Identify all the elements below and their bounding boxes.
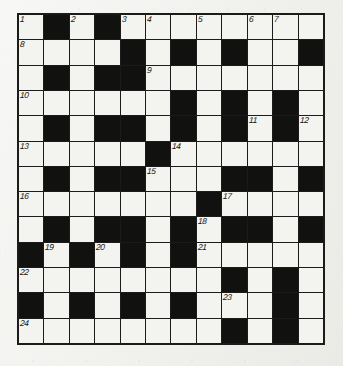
- crossword-letter-cell[interactable]: [248, 319, 272, 343]
- crossword-letter-cell[interactable]: [44, 192, 68, 216]
- crossword-letter-cell[interactable]: [19, 66, 43, 90]
- crossword-letter-cell[interactable]: [70, 167, 94, 191]
- crossword-letter-cell[interactable]: [146, 40, 170, 64]
- crossword-letter-cell[interactable]: 17: [222, 192, 246, 216]
- crossword-letter-cell[interactable]: [171, 66, 195, 90]
- crossword-letter-cell[interactable]: 15: [146, 167, 170, 191]
- crossword-letter-cell[interactable]: [171, 15, 195, 39]
- crossword-letter-cell[interactable]: [222, 243, 246, 267]
- crossword-letter-cell[interactable]: [273, 142, 297, 166]
- crossword-letter-cell[interactable]: [273, 40, 297, 64]
- crossword-letter-cell[interactable]: 10: [19, 91, 43, 115]
- crossword-letter-cell[interactable]: [146, 268, 170, 292]
- crossword-letter-cell[interactable]: 3: [121, 15, 145, 39]
- crossword-letter-cell[interactable]: [299, 243, 323, 267]
- crossword-letter-cell[interactable]: [44, 319, 68, 343]
- crossword-letter-cell[interactable]: [146, 243, 170, 267]
- crossword-letter-cell[interactable]: [197, 293, 221, 317]
- crossword-letter-cell[interactable]: 6: [248, 15, 272, 39]
- crossword-letter-cell[interactable]: [121, 319, 145, 343]
- crossword-letter-cell[interactable]: [70, 319, 94, 343]
- crossword-letter-cell[interactable]: [121, 142, 145, 166]
- crossword-letter-cell[interactable]: [19, 167, 43, 191]
- crossword-letter-cell[interactable]: 24: [19, 319, 43, 343]
- crossword-letter-cell[interactable]: [248, 66, 272, 90]
- crossword-letter-cell[interactable]: 9: [146, 66, 170, 90]
- crossword-letter-cell[interactable]: [197, 66, 221, 90]
- crossword-grid[interactable]: 123456789101112131415161718192021222324: [17, 13, 325, 345]
- crossword-letter-cell[interactable]: 8: [19, 40, 43, 64]
- crossword-letter-cell[interactable]: [70, 116, 94, 140]
- crossword-letter-cell[interactable]: [146, 91, 170, 115]
- crossword-letter-cell[interactable]: [171, 319, 195, 343]
- crossword-letter-cell[interactable]: [273, 217, 297, 241]
- crossword-letter-cell[interactable]: [299, 268, 323, 292]
- crossword-letter-cell[interactable]: [19, 217, 43, 241]
- crossword-letter-cell[interactable]: 2: [70, 15, 94, 39]
- crossword-letter-cell[interactable]: 11: [248, 116, 272, 140]
- crossword-letter-cell[interactable]: 20: [95, 243, 119, 267]
- crossword-letter-cell[interactable]: [197, 40, 221, 64]
- crossword-letter-cell[interactable]: 21: [197, 243, 221, 267]
- crossword-letter-cell[interactable]: 19: [44, 243, 68, 267]
- crossword-letter-cell[interactable]: [121, 91, 145, 115]
- crossword-letter-cell[interactable]: 23: [222, 293, 246, 317]
- crossword-letter-cell[interactable]: [222, 142, 246, 166]
- crossword-letter-cell[interactable]: [299, 293, 323, 317]
- crossword-letter-cell[interactable]: [95, 142, 119, 166]
- crossword-letter-cell[interactable]: [299, 192, 323, 216]
- crossword-letter-cell[interactable]: [70, 142, 94, 166]
- crossword-letter-cell[interactable]: [146, 192, 170, 216]
- crossword-letter-cell[interactable]: [44, 91, 68, 115]
- crossword-letter-cell[interactable]: 13: [19, 142, 43, 166]
- crossword-letter-cell[interactable]: [299, 142, 323, 166]
- crossword-letter-cell[interactable]: [248, 91, 272, 115]
- crossword-letter-cell[interactable]: [70, 268, 94, 292]
- crossword-letter-cell[interactable]: [248, 293, 272, 317]
- crossword-letter-cell[interactable]: 4: [146, 15, 170, 39]
- crossword-letter-cell[interactable]: [222, 66, 246, 90]
- crossword-letter-cell[interactable]: [197, 319, 221, 343]
- crossword-letter-cell[interactable]: [44, 268, 68, 292]
- crossword-letter-cell[interactable]: [44, 293, 68, 317]
- crossword-letter-cell[interactable]: 22: [19, 268, 43, 292]
- crossword-letter-cell[interactable]: [121, 192, 145, 216]
- crossword-letter-cell[interactable]: [70, 192, 94, 216]
- crossword-letter-cell[interactable]: 14: [171, 142, 195, 166]
- crossword-letter-cell[interactable]: [95, 91, 119, 115]
- crossword-letter-cell[interactable]: [95, 192, 119, 216]
- crossword-letter-cell[interactable]: [44, 142, 68, 166]
- crossword-letter-cell[interactable]: [299, 319, 323, 343]
- crossword-letter-cell[interactable]: [248, 243, 272, 267]
- crossword-letter-cell[interactable]: [70, 217, 94, 241]
- crossword-letter-cell[interactable]: [273, 192, 297, 216]
- crossword-letter-cell[interactable]: [70, 91, 94, 115]
- crossword-letter-cell[interactable]: 12: [299, 116, 323, 140]
- crossword-letter-cell[interactable]: [299, 15, 323, 39]
- crossword-letter-cell[interactable]: [222, 15, 246, 39]
- crossword-letter-cell[interactable]: [197, 91, 221, 115]
- crossword-letter-cell[interactable]: [197, 167, 221, 191]
- crossword-letter-cell[interactable]: 5: [197, 15, 221, 39]
- crossword-letter-cell[interactable]: [248, 192, 272, 216]
- crossword-letter-cell[interactable]: [248, 268, 272, 292]
- crossword-letter-cell[interactable]: [197, 116, 221, 140]
- crossword-letter-cell[interactable]: [95, 268, 119, 292]
- crossword-letter-cell[interactable]: [171, 167, 195, 191]
- crossword-letter-cell[interactable]: [95, 293, 119, 317]
- crossword-letter-cell[interactable]: [121, 268, 145, 292]
- crossword-letter-cell[interactable]: 7: [273, 15, 297, 39]
- crossword-letter-cell[interactable]: [146, 293, 170, 317]
- crossword-letter-cell[interactable]: [95, 319, 119, 343]
- crossword-letter-cell[interactable]: [273, 167, 297, 191]
- crossword-letter-cell[interactable]: [146, 217, 170, 241]
- crossword-letter-cell[interactable]: [19, 116, 43, 140]
- crossword-letter-cell[interactable]: [248, 142, 272, 166]
- crossword-letter-cell[interactable]: 16: [19, 192, 43, 216]
- crossword-letter-cell[interactable]: [44, 40, 68, 64]
- crossword-letter-cell[interactable]: [273, 243, 297, 267]
- crossword-letter-cell[interactable]: [70, 40, 94, 64]
- crossword-letter-cell[interactable]: [197, 268, 221, 292]
- crossword-letter-cell[interactable]: [70, 66, 94, 90]
- crossword-letter-cell[interactable]: 1: [19, 15, 43, 39]
